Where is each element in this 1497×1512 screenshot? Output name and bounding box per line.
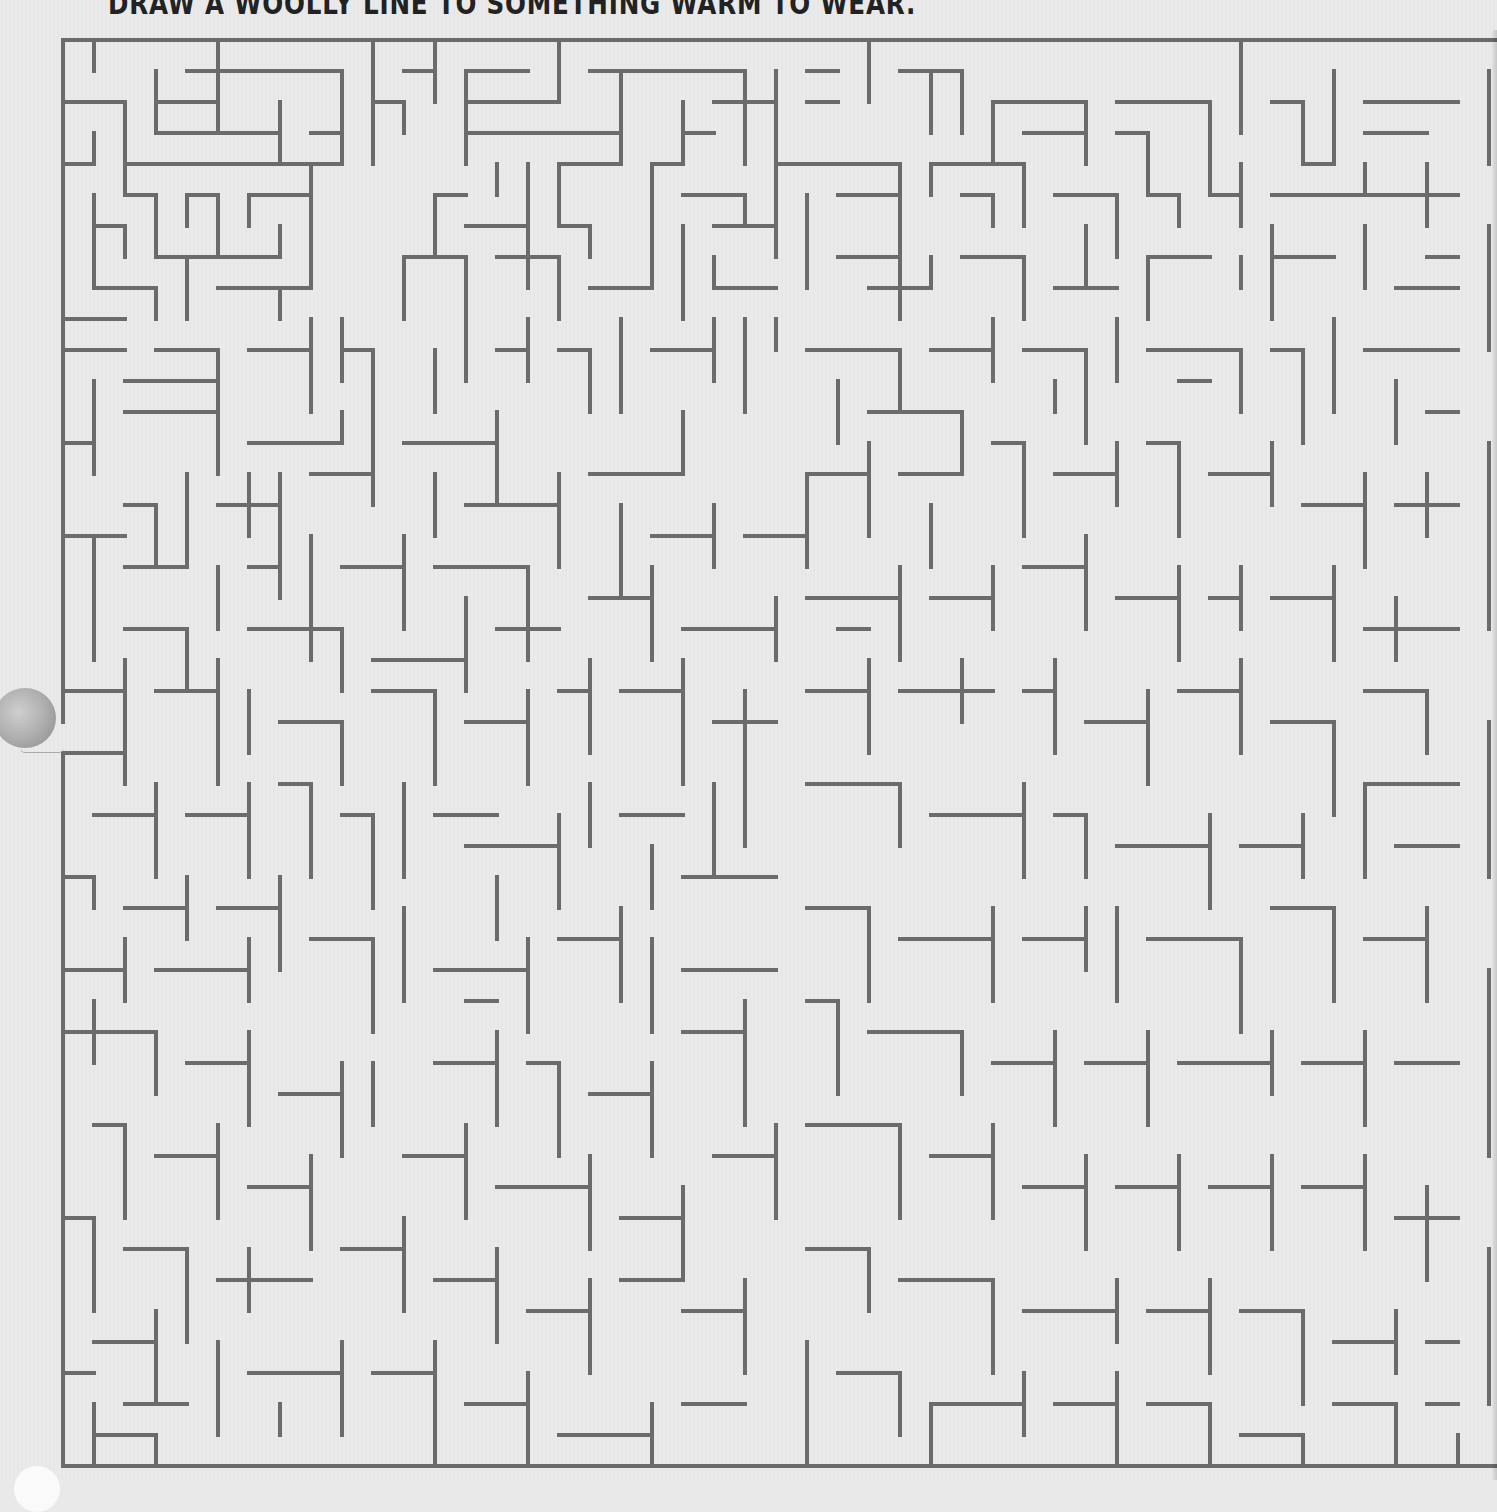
page-edge-shadow bbox=[1491, 30, 1497, 1480]
yarn-tail bbox=[20, 748, 64, 753]
page-corner-hole bbox=[14, 1466, 60, 1512]
